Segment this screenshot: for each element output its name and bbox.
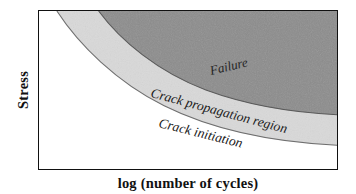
y-axis-label: Stress: [12, 10, 34, 170]
plot-regions-svg: [39, 11, 337, 169]
fatigue-diagram-figure: Failure Crack propagation region Crack i…: [0, 0, 356, 194]
plot-area: Failure Crack propagation region Crack i…: [38, 10, 338, 170]
x-axis-label: log (number of cycles): [38, 175, 338, 192]
